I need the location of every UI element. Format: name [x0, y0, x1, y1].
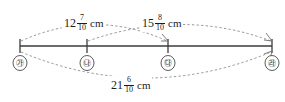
point-label-na-text: ㉯: [83, 59, 91, 68]
number-line-diagram: ㉮ ㉯ ㉰ ㉱ 12 7 10 cm 15 8 10 cm: [0, 0, 285, 102]
measurement-fraction: 8 10: [155, 14, 165, 32]
measurement-whole-number: 15: [142, 17, 154, 29]
point-label-da: ㉰: [161, 56, 175, 71]
point-label-ra: ㉱: [265, 56, 279, 71]
fraction-denominator: 10: [77, 24, 87, 32]
measurement-fraction: 7 10: [77, 14, 87, 32]
measure-arc-ga-to-ra: [21, 52, 271, 78]
arrow-head-ra-upper: [264, 33, 272, 41]
point-label-ga-text: ㉮: [16, 59, 24, 68]
measurement-unit: cm: [168, 18, 181, 29]
fraction-numerator: 8: [157, 14, 163, 22]
fraction-denominator: 10: [155, 24, 165, 32]
measurement-label-na-to-ra: 15 8 10 cm: [140, 14, 183, 32]
measurement-unit: cm: [137, 80, 150, 91]
measurement-whole-number: 12: [64, 17, 76, 29]
fraction-numerator: 7: [79, 14, 85, 22]
fraction-denominator: 10: [124, 86, 134, 94]
point-label-ga: ㉮: [13, 56, 27, 71]
point-label-ra-text: ㉱: [268, 59, 276, 68]
point-label-na: ㉯: [80, 56, 94, 71]
measurement-label-ga-to-da: 12 7 10 cm: [62, 14, 105, 32]
point-label-da-text: ㉰: [164, 59, 172, 68]
fraction-numerator: 6: [126, 76, 132, 84]
measurement-whole-number: 21: [111, 79, 123, 91]
measurement-unit: cm: [90, 18, 103, 29]
measurement-fraction: 6 10: [124, 76, 134, 94]
measurement-label-ga-to-ra: 21 6 10 cm: [109, 76, 152, 94]
